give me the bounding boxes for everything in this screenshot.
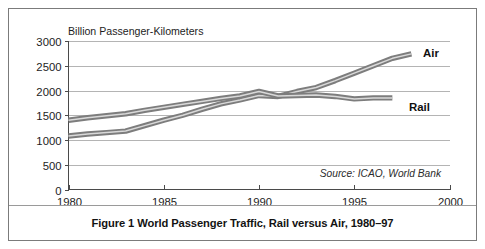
- x-tick-label: 1985: [152, 196, 177, 206]
- y-tick-label: 2000: [36, 86, 61, 98]
- y-tick-label: 1500: [36, 110, 61, 122]
- x-tick-labels-group: 19801985199019952000: [57, 196, 463, 206]
- line-chart-svg: Billion Passenger-Kilometers 05001000150…: [9, 9, 476, 205]
- y-tick-label: 2500: [36, 61, 61, 73]
- y-tick-label: 500: [43, 160, 62, 172]
- figure-container: Billion Passenger-Kilometers 05001000150…: [0, 0, 485, 249]
- figure-caption: Figure 1 World Passenger Traffic, Rail v…: [9, 206, 476, 240]
- x-tick-label: 1980: [57, 196, 82, 206]
- series-label-rail: Rail: [409, 101, 430, 113]
- series-labels-group: Air Rail: [409, 47, 439, 113]
- x-tick-label: 1990: [247, 196, 272, 206]
- y-tick-label: 1000: [36, 135, 61, 147]
- x-tick-marks-group: [70, 185, 451, 190]
- x-tick-label: 2000: [438, 196, 463, 206]
- source-note: Source: ICAO, World Bank: [320, 168, 442, 179]
- y-tick-labels-group: 050010001500200025003000: [36, 36, 61, 197]
- y-tick-label: 3000: [36, 36, 61, 48]
- chart-plot-panel: Billion Passenger-Kilometers 05001000150…: [9, 9, 476, 205]
- series-label-air: Air: [423, 47, 439, 59]
- y-axis-title: Billion Passenger-Kilometers: [68, 25, 203, 37]
- x-tick-label: 1995: [342, 196, 367, 206]
- y-axis-title-group: Billion Passenger-Kilometers: [68, 25, 203, 37]
- figure-frame: Billion Passenger-Kilometers 05001000150…: [8, 8, 477, 241]
